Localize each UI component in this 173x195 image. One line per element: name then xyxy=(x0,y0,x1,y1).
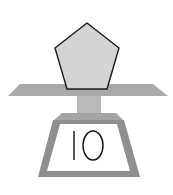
pentagon-shape xyxy=(55,23,119,89)
scale-stem xyxy=(77,96,101,115)
scale-figure xyxy=(0,0,173,195)
scale-base-cap xyxy=(53,113,124,121)
balance-scale-diagram: 10 pentagon xyxy=(0,0,173,195)
scale-display-panel xyxy=(47,124,130,171)
